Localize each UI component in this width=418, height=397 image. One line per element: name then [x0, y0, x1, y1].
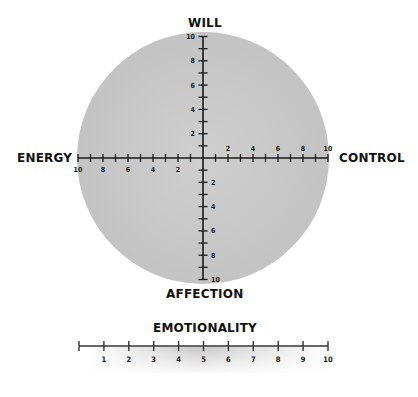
- svg-text:6: 6: [226, 355, 231, 364]
- svg-text:10: 10: [186, 33, 195, 41]
- svg-text:10: 10: [211, 276, 220, 284]
- svg-text:8: 8: [301, 145, 305, 153]
- svg-text:2: 2: [211, 179, 215, 187]
- label-affection: AFFECTION: [166, 287, 243, 301]
- svg-text:2: 2: [191, 130, 195, 138]
- svg-text:8: 8: [191, 57, 195, 65]
- personality-diagram: 222244446666888810101010 12345678910 WIL…: [0, 0, 418, 397]
- compass-diagram: 222244446666888810101010 12345678910: [0, 0, 418, 397]
- svg-text:9: 9: [301, 355, 306, 364]
- svg-text:4: 4: [251, 145, 256, 153]
- svg-text:2: 2: [176, 166, 180, 174]
- svg-text:8: 8: [276, 355, 281, 364]
- svg-text:10: 10: [74, 166, 83, 174]
- svg-text:6: 6: [211, 227, 216, 235]
- svg-text:4: 4: [211, 203, 216, 211]
- svg-text:4: 4: [151, 166, 156, 174]
- svg-text:2: 2: [226, 145, 230, 153]
- svg-text:4: 4: [176, 355, 181, 364]
- svg-text:7: 7: [251, 355, 256, 364]
- svg-text:6: 6: [191, 82, 196, 90]
- svg-text:10: 10: [323, 355, 333, 364]
- svg-text:2: 2: [126, 355, 131, 364]
- svg-text:6: 6: [126, 166, 131, 174]
- label-emotionality: EMOTIONALITY: [153, 321, 257, 335]
- label-control: CONTROL: [339, 151, 405, 165]
- svg-text:8: 8: [101, 166, 105, 174]
- svg-text:5: 5: [201, 355, 206, 364]
- label-will: WILL: [188, 16, 222, 30]
- svg-text:4: 4: [191, 106, 196, 114]
- svg-text:6: 6: [276, 145, 281, 153]
- label-energy: ENERGY: [17, 151, 72, 165]
- svg-text:8: 8: [211, 252, 215, 260]
- svg-text:10: 10: [324, 145, 333, 153]
- svg-text:3: 3: [151, 355, 156, 364]
- svg-text:1: 1: [102, 355, 107, 364]
